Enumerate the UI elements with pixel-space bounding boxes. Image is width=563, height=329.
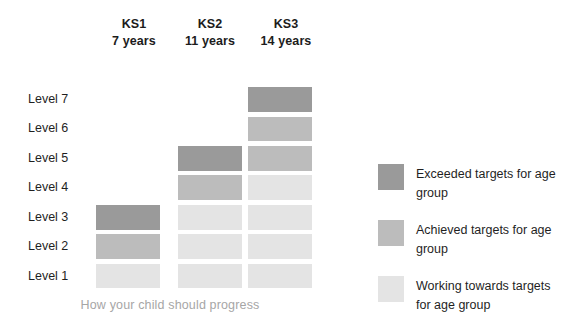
bar-cell-ks1-level1 (96, 264, 160, 289)
level-row: Level 6 (0, 114, 340, 143)
chart-plot-area: Level 7 Level 6 Level 5 Level 4 Level 3 … (0, 85, 340, 291)
chart-caption: How your child should progress (0, 298, 340, 312)
level-label-7: Level 7 (28, 85, 68, 114)
level-label-6: Level 6 (28, 114, 68, 143)
level-row: Level 1 (0, 262, 340, 291)
level-row: Level 3 (0, 203, 340, 232)
level-label-2: Level 2 (28, 232, 68, 261)
bar-cell-ks2-level7 (178, 87, 242, 112)
legend-swatch-achieved-icon (378, 220, 404, 246)
level-row: Level 4 (0, 173, 340, 202)
bar-cell-ks3-level2 (248, 234, 312, 259)
legend-item-achieved: Achieved targets for age group (378, 220, 563, 259)
column-headers: KS1 7 years KS2 11 years KS3 14 years (96, 16, 324, 60)
chart-legend: Exceeded targets for age group Achieved … (378, 164, 563, 329)
column-header-ks2: KS2 11 years (172, 16, 248, 60)
column-header-ks2-key: KS2 (172, 16, 248, 33)
level-label-5: Level 5 (28, 144, 68, 173)
legend-swatch-working-icon (378, 276, 404, 302)
legend-label-working: Working towards targets for age group (416, 276, 563, 315)
bar-cell-ks3-level5 (248, 146, 312, 171)
column-header-ks1-key: KS1 (96, 16, 172, 33)
column-header-ks3-age: 14 years (248, 33, 324, 50)
bar-cell-ks3-level3 (248, 205, 312, 230)
bar-cell-ks2-level6 (178, 117, 242, 142)
level-label-3: Level 3 (28, 203, 68, 232)
level-row: Level 7 (0, 85, 340, 114)
bar-cell-ks3-level4 (248, 175, 312, 200)
bar-cell-ks1-level2 (96, 234, 160, 259)
level-label-1: Level 1 (28, 262, 68, 291)
legend-item-working: Working towards targets for age group (378, 276, 563, 315)
legend-label-achieved: Achieved targets for age group (416, 220, 563, 259)
column-header-ks3: KS3 14 years (248, 16, 324, 60)
bar-cell-ks2-level5 (178, 146, 242, 171)
bar-cell-ks1-level6 (96, 117, 160, 142)
bar-cell-ks3-level1 (248, 264, 312, 289)
bar-cell-ks2-level3 (178, 205, 242, 230)
legend-swatch-exceeded-icon (378, 164, 404, 190)
bar-cell-ks1-level5 (96, 146, 160, 171)
bar-cell-ks3-level6 (248, 117, 312, 142)
column-header-ks1-age: 7 years (96, 33, 172, 50)
level-row: Level 5 (0, 144, 340, 173)
bar-cell-ks1-level7 (96, 87, 160, 112)
bar-cell-ks1-level4 (96, 175, 160, 200)
bar-cell-ks3-level7 (248, 87, 312, 112)
bar-cell-ks2-level1 (178, 264, 242, 289)
level-label-4: Level 4 (28, 173, 68, 202)
column-header-ks3-key: KS3 (248, 16, 324, 33)
bar-cell-ks1-level3 (96, 205, 160, 230)
column-header-ks1: KS1 7 years (96, 16, 172, 60)
legend-item-exceeded: Exceeded targets for age group (378, 164, 563, 203)
level-row: Level 2 (0, 232, 340, 261)
column-header-ks2-age: 11 years (172, 33, 248, 50)
bar-cell-ks2-level4 (178, 175, 242, 200)
bar-cell-ks2-level2 (178, 234, 242, 259)
legend-label-exceeded: Exceeded targets for age group (416, 164, 563, 203)
